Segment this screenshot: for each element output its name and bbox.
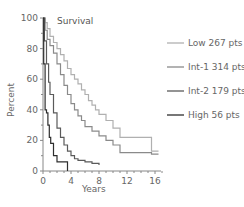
y-tick-label: 40 <box>27 105 39 115</box>
x-tick-label: 0 <box>40 176 46 186</box>
x-tick-label: 16 <box>149 176 161 186</box>
y-tick-label: 100 <box>21 13 38 23</box>
chart-title: Survival <box>57 16 93 26</box>
legend-label: Int-1 314 pts <box>188 62 244 72</box>
y-tick-label: 60 <box>27 74 39 84</box>
curve-int-2 <box>43 18 99 165</box>
legend-label: High 56 pts <box>188 110 240 120</box>
legend-label: Int-2 179 pts <box>188 86 244 96</box>
y-axis-title: Percent <box>6 83 16 117</box>
y-tick-label: 20 <box>27 135 39 145</box>
survival-curves <box>43 18 159 171</box>
y-tick-label: 80 <box>27 44 39 54</box>
x-axis-title: Years <box>81 184 106 194</box>
y-tick-label: 0 <box>32 166 38 176</box>
legend: Low 267 ptsInt-1 314 ptsInt-2 179 ptsHig… <box>167 38 244 120</box>
legend-label: Low 267 pts <box>188 38 243 48</box>
x-tick-label: 12 <box>121 176 132 186</box>
y-ticks: 020406080100 <box>21 13 43 176</box>
x-tick-label: 4 <box>68 176 74 186</box>
survival-chart: 020406080100 0481216 Survival Years Perc… <box>0 0 244 207</box>
